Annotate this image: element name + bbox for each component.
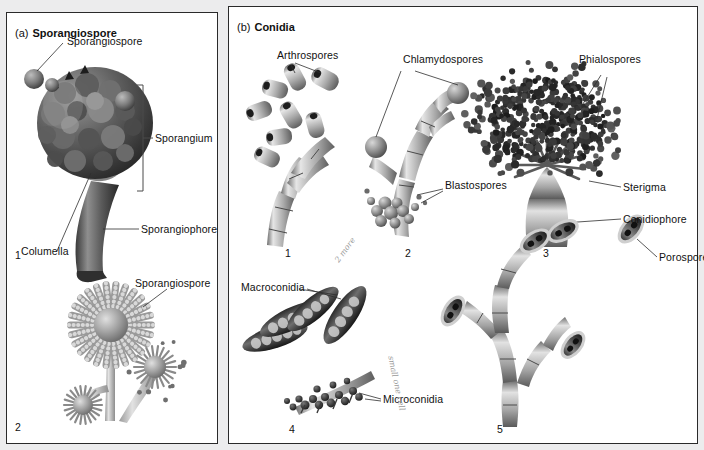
label-phialospores: Phialospores [579,53,641,65]
art-phialospores [461,60,621,247]
panel-conidia: (b)Conidia [228,6,698,444]
art-arthrospores [244,61,342,247]
label-sporangiophore: Sporangiophore [141,223,217,235]
panel-b-artwork [229,7,699,445]
figure-number-a1: 1 [15,249,21,261]
label-chlamydospores: Chlamydospores [403,53,483,65]
figure-number-a2: 2 [15,421,21,433]
label-conidiophore: Conidiophore [623,213,687,225]
label-sporangiospore-lower: Sporangiospore [135,277,211,289]
label-microconidia: Microconidia [383,393,443,405]
figure-number-b4: 4 [289,423,295,435]
figure-number-b1: 1 [285,247,291,259]
figure-number-b5: 5 [497,423,503,435]
label-porospore: Porospore [659,251,704,263]
art-chlamydospores [364,71,469,237]
label-blastospores: Blastospores [445,179,507,191]
label-macroconidia: Macroconidia [241,281,305,293]
panel-sporangiospore: (a)Sporangiospore [6,12,218,444]
art-macroconidia [239,280,381,415]
figure-root: (a)Sporangiospore [0,0,704,450]
figure-number-b2: 2 [405,247,411,259]
figure-number-b3: 3 [543,247,549,259]
label-sterigma: Sterigma [623,181,666,193]
label-sporangiospore-top: Sporangiospore [67,35,143,47]
art-porospore [436,210,657,427]
label-sporangium: Sporangium [155,132,213,144]
label-columella: Columella [21,245,69,257]
label-arthrospores: Arthrospores [277,49,338,61]
